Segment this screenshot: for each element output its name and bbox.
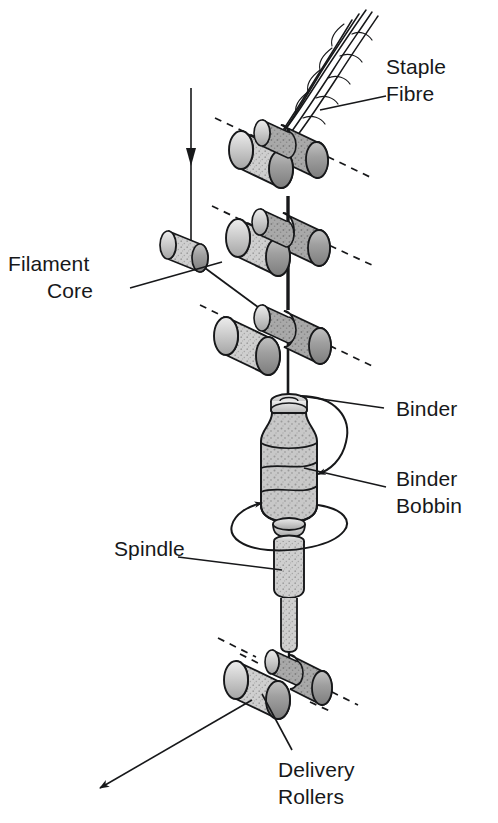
bobbin-body — [261, 413, 317, 522]
label-binder: Binder — [396, 397, 457, 420]
label-filament-core-line2: Core — [47, 279, 93, 302]
label-staple-fibre-line2: Fibre — [386, 82, 434, 105]
core-spinning-diagram: Staple Fibre Filament Core Binder Binder… — [0, 0, 498, 823]
label-staple-fibre-line1: Staple — [386, 55, 446, 78]
label-delivery-rollers-line1: Delivery — [278, 758, 355, 781]
label-binder-bobbin-line2: Bobbin — [396, 494, 462, 517]
label-filament-core-line1: Filament — [8, 252, 89, 275]
diagram-canvas: Staple Fibre Filament Core Binder Binder… — [0, 0, 498, 823]
label-spindle: Spindle — [114, 537, 185, 560]
label-delivery-rollers-line2: Rollers — [278, 785, 344, 808]
spindle-shaft — [281, 598, 297, 652]
label-binder-bobbin-line1: Binder — [396, 467, 457, 490]
